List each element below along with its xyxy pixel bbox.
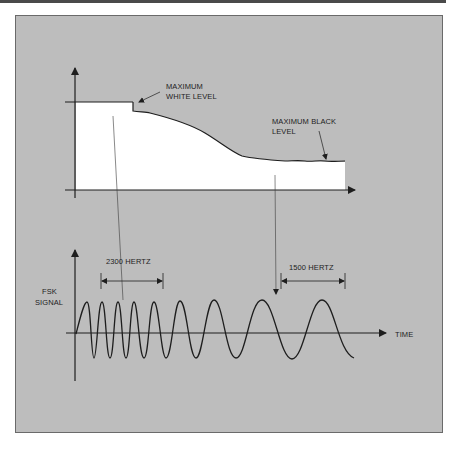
- fsk-diagram: MAXIMUM WHITE LEVEL MAXIMUM BLACK LEVEL …: [0, 0, 459, 450]
- fsk-label-1: FSK: [42, 287, 57, 296]
- freq-1500-label: 1500 HERTZ: [289, 263, 334, 272]
- freq-2300-dimension: 2300 HERTZ: [101, 257, 163, 289]
- max-black-label-1: MAXIMUM BLACK: [272, 117, 336, 126]
- time-label: TIME: [395, 330, 413, 339]
- freq-2300-label: 2300 HERTZ: [106, 257, 151, 266]
- max-white-label-2: WHITE LEVEL: [166, 92, 217, 101]
- fsk-signal-graph: FSK SIGNAL TIME: [35, 250, 413, 381]
- fsk-label-2: SIGNAL: [35, 298, 63, 307]
- black-label-pointer: [319, 131, 326, 159]
- freq-1500-dimension: 1500 HERTZ: [281, 263, 345, 289]
- fsk-waveform: [76, 300, 354, 359]
- white-label-pointer: [139, 92, 160, 102]
- video-level-graph: MAXIMUM WHITE LEVEL MAXIMUM BLACK LEVEL: [65, 68, 355, 198]
- max-black-label-2: LEVEL: [272, 127, 296, 136]
- max-white-label-1: MAXIMUM: [166, 82, 203, 91]
- connector-line-black: [275, 175, 276, 294]
